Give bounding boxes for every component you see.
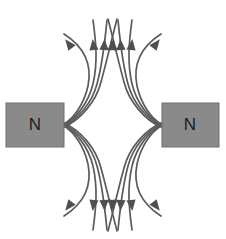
arrow-heads-group (62, 36, 164, 213)
field-arrow-up (99, 39, 109, 50)
field-line-left-down (64, 125, 96, 230)
field-line-right-down (108, 123, 161, 231)
field-arrow-down (126, 199, 136, 211)
magnets-group: NN (6, 103, 219, 147)
field-line-left-up (64, 19, 117, 127)
field-diagram-canvas: NN (0, 0, 226, 239)
field-arrow-down (88, 199, 98, 211)
field-arrow-down (62, 199, 76, 213)
field-line-right-up (129, 20, 161, 125)
field-line-right-down (129, 125, 161, 230)
field-lines-group (64, 19, 161, 231)
left-magnet-pole-label: N (29, 115, 41, 134)
field-line-left-up (64, 20, 96, 125)
field-arrow-down (116, 200, 126, 211)
field-arrow-up (62, 36, 76, 50)
field-arrow-down (99, 200, 109, 211)
magnetic-field-diagram: NN (0, 0, 226, 239)
field-arrow-up (126, 39, 136, 51)
field-arrow-up (116, 39, 126, 50)
right-magnet-pole-label: N (184, 115, 196, 134)
field-line-left-down (64, 123, 117, 231)
field-line-right-up (108, 19, 161, 127)
field-arrow-up (149, 36, 163, 50)
field-arrow-up (88, 39, 98, 51)
field-arrow-down (149, 199, 163, 213)
